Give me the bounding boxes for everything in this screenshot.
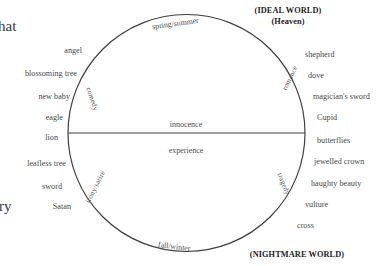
symbol-left-lower-2: sword [0, 183, 62, 191]
diagram-page: hat ry (IDEAL WORLD) (Heaven) (NIGHTMARE… [0, 0, 386, 266]
axis-label-innocence: innocence [146, 120, 226, 129]
symbol-right-upper-4: Cupid [317, 114, 337, 122]
symbol-left-upper-5: lion [0, 134, 58, 142]
cropped-text-top-left: hat [0, 18, 16, 35]
pole-heading-heaven: (Heaven) [228, 17, 348, 26]
symbol-left-lower-3: Satan [0, 203, 71, 211]
pole-heading-nightmare-world: (NIGHTMARE WORLD) [222, 250, 372, 259]
symbol-right-upper-3: magician's sword [313, 93, 370, 101]
symbol-left-upper-4: eagle [0, 114, 63, 122]
symbol-right-upper-2: dove [308, 72, 324, 80]
symbol-left-upper-2: blossoming tree [0, 70, 77, 78]
symbol-right-upper-1: shepherd [305, 51, 335, 59]
symbol-left-upper-3: new baby [0, 93, 70, 101]
symbol-right-lower-4: vulture [305, 201, 328, 209]
symbol-left-upper-1: angel [0, 47, 82, 55]
symbol-right-lower-1: butterflies [317, 137, 350, 145]
axis-label-experience: experience [146, 146, 226, 155]
symbol-right-lower-5: cross [297, 222, 314, 230]
symbol-right-lower-3: haughty beauty [311, 180, 361, 188]
symbol-right-lower-2: jewelled crown [314, 158, 364, 166]
pole-heading-ideal-world: (IDEAL WORLD) [228, 6, 348, 15]
symbol-left-lower-1: leafless tree [0, 160, 66, 168]
